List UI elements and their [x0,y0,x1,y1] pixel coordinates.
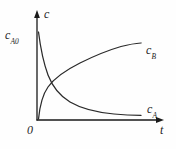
x-axis-label: t [160,124,164,136]
curve-c-b-label: cB [146,44,156,56]
curve-c-a-label: cA [147,103,157,115]
curve-c-a [39,32,142,115]
initial-concentration-subscript: A0 [11,37,19,46]
concentration-vs-time-chart: c cA0 cB cA 0 t [0,0,176,149]
curve-c-a-symbol: c [147,102,153,116]
y-axis-arrow-icon [34,10,40,18]
curve-c-b [39,43,142,119]
y-axis-label: c [44,8,50,20]
origin-label: 0 [27,124,33,136]
initial-concentration-symbol: c [5,28,11,42]
initial-concentration-label: cA0 [5,29,19,41]
curve-c-b-symbol: c [146,43,152,57]
curve-c-b-subscript: B [152,52,157,61]
curve-c-a-subscript: A [153,111,158,120]
